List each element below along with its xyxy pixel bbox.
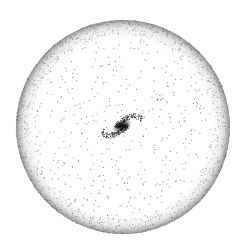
halo-galaxy-illustration	[0, 0, 246, 249]
